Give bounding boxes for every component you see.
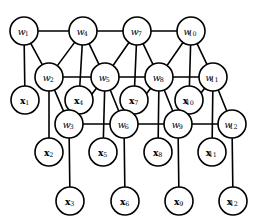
node-subscript-x6: 6 xyxy=(125,200,129,208)
node-subscript-w3: 3 xyxy=(70,123,74,131)
node-subscript-w2: 2 xyxy=(50,76,54,84)
node-x6: x6 xyxy=(111,187,139,215)
edge-w11-x11 xyxy=(212,91,213,139)
node-subscript-x5: 5 xyxy=(103,151,107,159)
node-subscript-x8: 8 xyxy=(158,151,162,159)
edge-w10-x10 xyxy=(189,44,190,86)
edge-w4-x4 xyxy=(80,44,82,86)
node-subscript-x1: 1 xyxy=(25,99,29,107)
node-subscript-w4: 4 xyxy=(84,30,88,38)
node-subscript-w5: 5 xyxy=(106,76,110,84)
node-w11: w11 xyxy=(199,63,227,91)
edge-w12-x12 xyxy=(232,138,233,188)
node-x8: x8 xyxy=(144,138,172,166)
node-subscript-x11: 11 xyxy=(209,151,217,159)
edge-w6-x6 xyxy=(124,138,125,188)
node-subscript-w12: 12 xyxy=(229,123,237,131)
node-w1: w1 xyxy=(10,17,38,45)
node-w9: w9 xyxy=(164,110,192,138)
node-x5: x5 xyxy=(89,138,117,166)
node-subscript-w9: 9 xyxy=(179,123,183,131)
edge-w7-x7 xyxy=(135,44,137,86)
edge-w10-w11 xyxy=(197,43,207,65)
node-subscript-w8: 8 xyxy=(160,76,164,84)
node-subscript-x10: 10 xyxy=(186,99,194,107)
node-x9: x9 xyxy=(165,187,193,215)
node-w2: w2 xyxy=(35,63,63,91)
node-w6: w6 xyxy=(110,110,138,138)
edge-w4-w5 xyxy=(89,43,99,65)
edge-w8-w9 xyxy=(164,90,173,112)
edge-w1-x1 xyxy=(24,45,25,87)
node-w5: w5 xyxy=(91,63,119,91)
edge-w5-x5 xyxy=(103,91,104,139)
node-w10: w10 xyxy=(177,17,205,45)
edge-w3-x3 xyxy=(69,138,70,188)
edge-w1-w2 xyxy=(30,43,42,65)
graphical-model-figure: w1w4w7w10w2w5w8w11x1x4x7x10w3w6w9w12x2x5… xyxy=(0,0,258,224)
node-subscript-x7: 7 xyxy=(134,99,138,107)
node-subscript-w10: 10 xyxy=(188,30,196,38)
node-x2: x2 xyxy=(35,138,63,166)
edge-w7-w8 xyxy=(143,43,153,65)
edge-w2-w3 xyxy=(54,89,63,111)
graph-canvas: w1w4w7w10w2w5w8w11x1x4x7x10w3w6w9w12x2x5… xyxy=(0,0,258,224)
node-w8: w8 xyxy=(145,63,173,91)
node-subscript-x4: 4 xyxy=(79,99,83,107)
node-w3: w3 xyxy=(55,110,83,138)
node-x11: x11 xyxy=(198,138,226,166)
edge-w11-w12 xyxy=(218,90,227,112)
node-subscript-w1: 1 xyxy=(25,30,29,38)
node-x12: x12 xyxy=(219,187,247,215)
node-layer: w1w4w7w10w2w5w8w11x1x4x7x10w3w6w9w12x2x5… xyxy=(10,17,247,215)
node-subscript-w11: 11 xyxy=(210,76,218,84)
node-subscript-x3: 3 xyxy=(70,200,74,208)
edge-w8-x8 xyxy=(158,91,159,139)
node-w12: w12 xyxy=(218,110,246,138)
node-subscript-w6: 6 xyxy=(125,123,129,131)
node-x3: x3 xyxy=(56,187,84,215)
node-w7: w7 xyxy=(123,17,151,45)
node-subscript-x2: 2 xyxy=(49,151,53,159)
node-subscript-w7: 7 xyxy=(138,30,142,38)
node-w4: w4 xyxy=(69,17,97,45)
edge-w5-w6 xyxy=(110,90,119,112)
edge-w7-w5 xyxy=(113,42,130,66)
edge-w9-x9 xyxy=(178,138,179,188)
node-subscript-x9: 9 xyxy=(179,200,183,208)
node-subscript-x12: 12 xyxy=(230,200,238,208)
node-x1: x1 xyxy=(11,86,39,114)
edge-w4-w2 xyxy=(57,42,75,66)
edge-w10-w8 xyxy=(167,42,184,66)
